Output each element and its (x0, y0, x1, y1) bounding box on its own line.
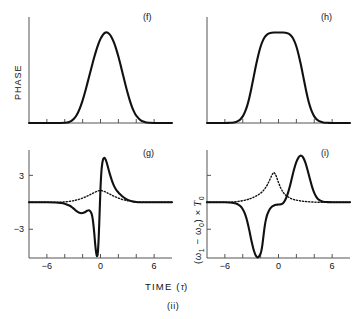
x-tick-label: 6 (152, 261, 157, 271)
y-tick-label: −3 (14, 224, 24, 234)
y-tick-label: 3 (19, 171, 24, 181)
x-tick-label: 6 (330, 261, 335, 271)
curve-chirp-solid (207, 156, 350, 258)
x-tick-label: 0 (276, 261, 281, 271)
curve-phase-gaussian (29, 32, 172, 123)
panel-h (207, 17, 350, 123)
figure-container: −606−33−606 PHASE (ω1 − ω0) × T0 TIME (τ… (0, 0, 360, 319)
curve-phase-super-gaussian (207, 33, 350, 123)
x-axis-label-time: TIME (τ) (145, 281, 188, 292)
panel-g (29, 150, 172, 258)
panel-tag-f: (f) (143, 12, 152, 22)
x-tick-label: −6 (220, 261, 230, 271)
x-tick-label: −6 (42, 261, 52, 271)
panel-tag-g: (g) (143, 148, 154, 158)
panel-f (29, 17, 172, 123)
curve-chirp-dotted (207, 173, 350, 203)
y-axis-label-phase: PHASE (13, 64, 23, 100)
figure-caption: (ii) (167, 301, 179, 311)
curve-chirp-solid (29, 158, 172, 256)
panel-tag-i: (i) (321, 148, 329, 158)
y-axis-label-frequency: (ω1 − ω0) × T0 (192, 196, 205, 264)
plot-svg: −606−33−606 (0, 0, 360, 319)
x-tick-label: 0 (98, 261, 103, 271)
panel-tag-h: (h) (321, 12, 332, 22)
panel-i (207, 150, 350, 258)
